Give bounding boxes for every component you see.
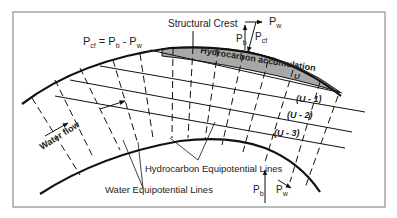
vector-pcf-top-label: Pcf bbox=[255, 31, 267, 44]
u-label: U bbox=[294, 72, 300, 81]
hydrodynamic-trap-diagram: Structural Crest Pcf = Pb - Pw Pw Pb Pcf… bbox=[0, 0, 397, 218]
bottom-pb-label: Pb bbox=[253, 184, 264, 197]
vector-pw-top-label: Pw bbox=[269, 15, 282, 29]
u2-label: (U - 2) bbox=[287, 110, 313, 120]
u3-label: (U - 3) bbox=[274, 128, 300, 138]
u1-label: (U - 1) bbox=[296, 94, 322, 104]
water-equipotential-label: Water Equipotential Lines bbox=[105, 184, 213, 195]
label-leader-lines bbox=[123, 122, 215, 188]
hydrocarbon-equipotential-label: Hydrocarbon Equipotential Lines bbox=[145, 163, 283, 174]
structural-crest-label: Structural Crest bbox=[168, 18, 238, 29]
water-flow-label: Water flow bbox=[38, 119, 82, 152]
pressure-equation: Pcf = Pb - Pw bbox=[83, 35, 143, 49]
